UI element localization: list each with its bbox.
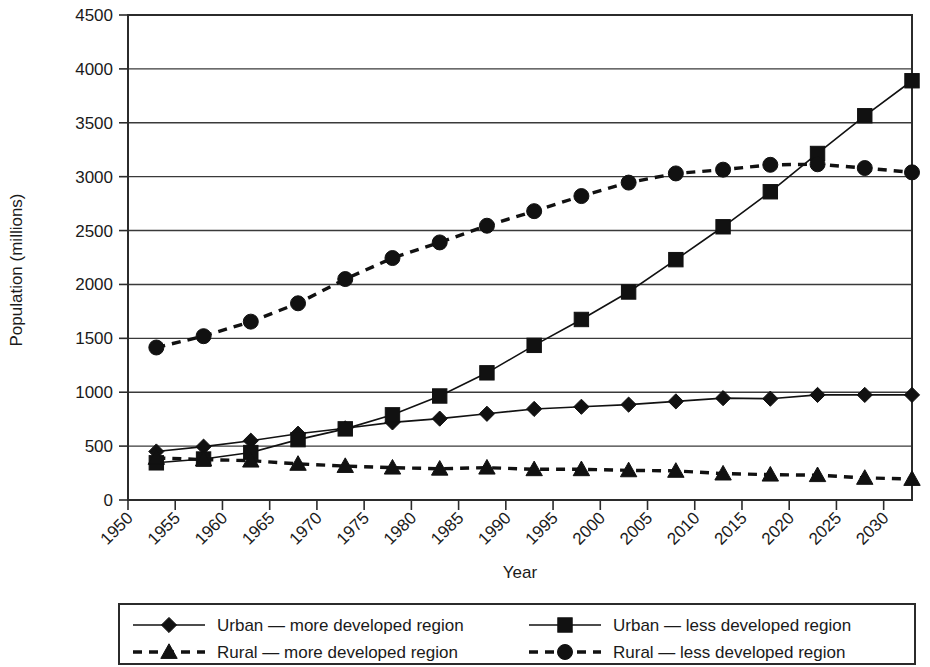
y-tick-label: 0 [104, 491, 113, 510]
circle-marker [527, 204, 542, 219]
diamond-marker [574, 399, 589, 414]
diamond-marker [904, 387, 919, 402]
y-tick-label: 500 [85, 437, 113, 456]
circle-marker [149, 340, 164, 355]
circle-marker [857, 161, 872, 176]
square-marker [527, 338, 541, 352]
legend-label: Rural — more developed region [217, 643, 458, 662]
circle-marker [338, 272, 353, 287]
square-marker [433, 389, 447, 403]
y-axis-ticks [119, 15, 128, 500]
y-tick-label: 1000 [75, 383, 113, 402]
y-tick-label: 1500 [75, 329, 113, 348]
x-axis-ticks [128, 500, 884, 510]
x-tick-label: 1965 [238, 508, 278, 548]
square-marker [338, 422, 352, 436]
square-marker [574, 312, 588, 326]
y-axis-tick-labels: 050010001500200025003000350040004500 [75, 6, 113, 510]
x-axis-title-label: Year [503, 563, 538, 582]
diamond-marker [857, 387, 872, 402]
x-tick-label: 2020 [758, 508, 798, 548]
y-tick-label: 4000 [75, 60, 113, 79]
circle-marker [291, 296, 306, 311]
gridlines [128, 69, 912, 446]
x-tick-label: 1975 [333, 508, 373, 548]
series-2 [148, 450, 920, 486]
x-tick-label: 1955 [144, 508, 184, 548]
circle-marker [243, 314, 258, 329]
x-tick-label: 1970 [286, 508, 326, 548]
y-axis-title-label: Population (millions) [7, 193, 26, 346]
legend-label: Urban — less developed region [613, 616, 851, 635]
x-tick-label: 1950 [97, 508, 137, 548]
x-tick-label: 2000 [569, 508, 609, 548]
square-marker [385, 408, 399, 422]
chart-canvas: Population (millions) 050010001500200025… [0, 0, 930, 667]
diamond-marker [621, 397, 636, 412]
diamond-marker [763, 391, 778, 406]
x-axis-title: Year [503, 563, 538, 582]
diamond-marker [527, 401, 542, 416]
circle-marker [385, 251, 400, 266]
x-tick-label: 1985 [427, 508, 467, 548]
plot-area-frame [128, 15, 912, 500]
x-tick-label: 2005 [616, 508, 656, 548]
square-marker [669, 252, 683, 266]
x-tick-label: 1995 [522, 508, 562, 548]
circle-marker [668, 166, 683, 181]
chart-legend: Urban — more developed regionUrban — les… [119, 604, 915, 664]
y-tick-label: 3000 [75, 168, 113, 187]
x-tick-label: 2025 [805, 508, 845, 548]
square-marker [558, 618, 572, 632]
triangle-marker [857, 470, 873, 485]
data-series-layer [148, 74, 920, 486]
circle-marker [479, 218, 494, 233]
legend-label: Rural — less developed region [613, 643, 845, 662]
square-marker [858, 109, 872, 123]
diamond-marker [432, 411, 447, 426]
circle-marker [196, 329, 211, 344]
diamond-marker [479, 406, 494, 421]
square-marker [716, 220, 730, 234]
x-tick-label: 1960 [191, 508, 231, 548]
circle-marker [810, 157, 825, 172]
population-line-chart: Population (millions) 050010001500200025… [0, 0, 930, 667]
x-tick-label: 1990 [474, 508, 514, 548]
circle-marker [574, 189, 589, 204]
x-tick-label: 2030 [852, 508, 892, 548]
circle-marker [763, 157, 778, 172]
diamond-marker [668, 394, 683, 409]
x-axis-tick-labels: 1950195519601965197019751980198519901995… [97, 508, 893, 548]
circle-marker [621, 175, 636, 190]
y-tick-label: 2000 [75, 275, 113, 294]
circle-marker [558, 645, 573, 660]
legend-label: Urban — more developed region [217, 616, 464, 635]
y-axis-title: Population (millions) [7, 193, 26, 346]
square-marker [291, 432, 305, 446]
x-tick-label: 2010 [663, 508, 703, 548]
triangle-marker [809, 467, 825, 482]
diamond-marker [810, 387, 825, 402]
circle-marker [905, 165, 920, 180]
triangle-marker [904, 471, 920, 486]
square-marker [763, 185, 777, 199]
square-marker [480, 366, 494, 380]
square-marker [621, 285, 635, 299]
circle-marker [432, 235, 447, 250]
x-tick-label: 2015 [711, 508, 751, 548]
x-tick-label: 1980 [380, 508, 420, 548]
square-marker [905, 74, 919, 88]
series-line [156, 164, 912, 347]
y-tick-label: 4500 [75, 6, 113, 25]
y-tick-label: 3500 [75, 114, 113, 133]
y-tick-label: 2500 [75, 222, 113, 241]
circle-marker [716, 162, 731, 177]
series-3 [149, 157, 920, 355]
